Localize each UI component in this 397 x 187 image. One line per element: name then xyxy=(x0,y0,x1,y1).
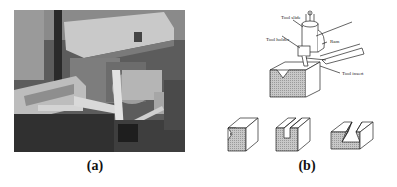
label-tool-slide: Tool slide xyxy=(281,15,301,20)
caption-b: (b) xyxy=(292,158,322,174)
shaper-tool-diagram xyxy=(0,0,397,187)
label-ram: Ram xyxy=(330,39,339,44)
label-tool-insert: Tool insert xyxy=(342,71,363,76)
label-tool-holder: Tool holder xyxy=(266,37,289,42)
shaper-diagram: Tool slide Tool holder Ram Tool insert xyxy=(0,0,397,187)
